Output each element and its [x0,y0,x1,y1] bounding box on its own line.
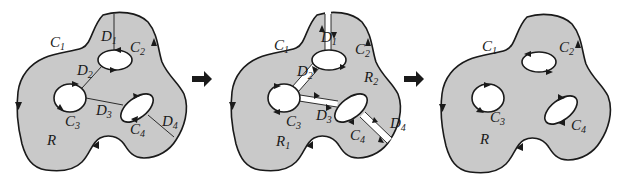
panel-1: C1 C2 C3 C4 D1 D2 D3 D4 R [15,12,186,170]
hole-C3 [268,84,300,112]
label-C1: C1 [274,37,289,55]
label-C1: C1 [482,38,497,56]
hole-C2 [98,50,132,70]
region-R1-R2 [231,12,400,170]
label-R: R [46,132,56,148]
label-C1: C1 [50,34,65,52]
transition-arrow-2-icon [404,71,424,87]
panel-2: C1 C2 C3 C4 D1 D2 D3 D4 R1 R2 [229,10,406,171]
label-R: R [479,131,489,147]
label-D4: D4 [389,115,406,133]
hole-C3 [472,84,504,112]
panel-3: C1 C2 C3 C4 R [439,14,610,172]
diagram-canvas: C1 C2 C3 C4 D1 D2 D3 D4 R [0,0,629,187]
transition-arrow-1-icon [192,71,212,87]
region-R [441,14,610,172]
